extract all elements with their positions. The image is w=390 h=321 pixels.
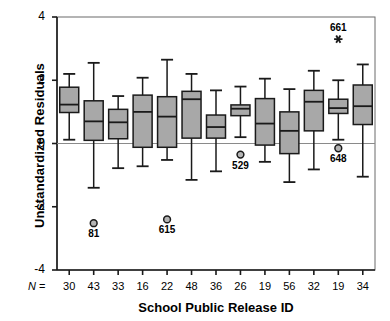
- box: [280, 112, 299, 154]
- outlier-id-label: 661: [321, 22, 355, 33]
- outlier-circle-marker: [164, 216, 171, 223]
- box: [60, 87, 79, 112]
- x-axis-label: School Public Release ID: [57, 300, 375, 315]
- outlier-circle-marker: [90, 220, 97, 227]
- box: [255, 99, 274, 145]
- box: [304, 90, 323, 130]
- box: [329, 99, 348, 113]
- box: [353, 85, 372, 125]
- outlier-id-label: 615: [150, 224, 184, 235]
- box: [133, 95, 152, 147]
- y-tick-label: -2: [19, 199, 45, 213]
- box: [231, 105, 250, 116]
- box: [109, 109, 128, 138]
- outlier-circle-marker: [237, 151, 244, 158]
- box-plot-figure: Unstandardized Residuals School Public R…: [0, 0, 390, 321]
- n-tick-label: 34: [348, 280, 378, 292]
- y-tick-label: 2: [19, 72, 45, 86]
- outlier-circle-marker: [335, 145, 342, 152]
- n-italic: N: [28, 280, 36, 292]
- n-equals: =: [36, 280, 45, 292]
- n-prefix-label: N =: [28, 280, 45, 292]
- y-tick-label: -4: [19, 262, 45, 276]
- y-tick-label: 0: [19, 136, 45, 150]
- outlier-id-label: 529: [223, 160, 257, 171]
- outlier-asterisk-marker: [334, 36, 342, 43]
- outlier-id-label: 81: [77, 228, 111, 239]
- outlier-id-label: 648: [321, 153, 355, 164]
- box: [158, 97, 177, 148]
- y-tick-label: 4: [19, 9, 45, 23]
